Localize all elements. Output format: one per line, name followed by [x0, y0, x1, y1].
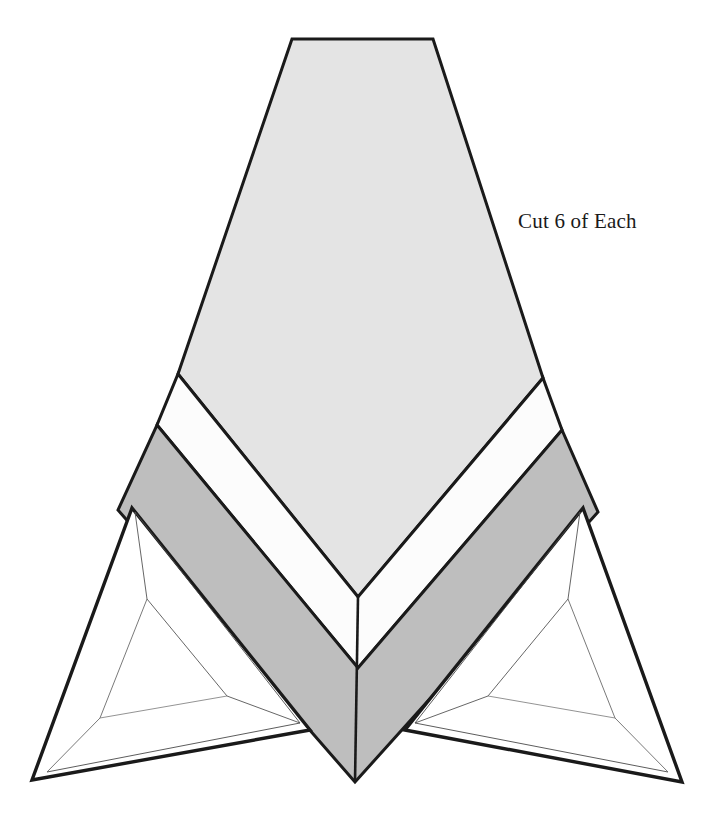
- pattern-diagram-canvas: Cut 6 of Each: [0, 0, 722, 838]
- cut-instruction-label: Cut 6 of Each: [518, 209, 637, 233]
- pattern-illustration: Cut 6 of Each: [0, 0, 722, 838]
